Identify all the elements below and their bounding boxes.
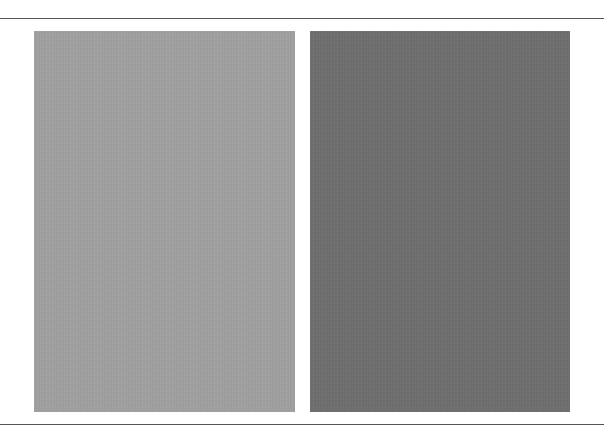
bottom-rule	[0, 424, 604, 425]
light-gray-swatch	[34, 31, 295, 412]
top-rule	[0, 18, 604, 19]
dark-gray-swatch	[310, 31, 570, 412]
